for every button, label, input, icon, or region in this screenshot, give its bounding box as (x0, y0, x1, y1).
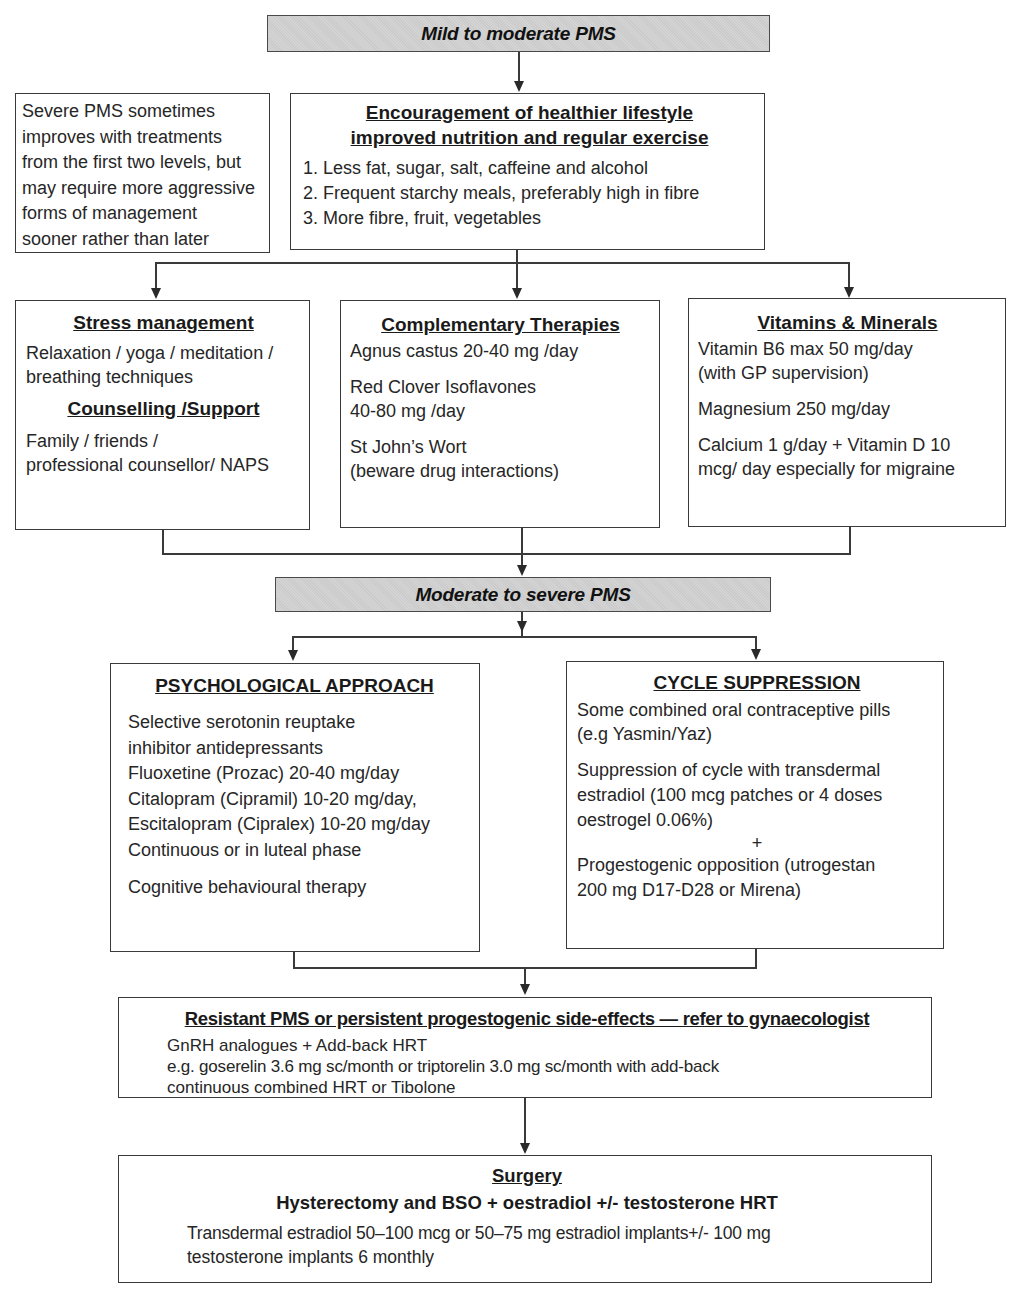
vitamins-minerals-box: Vitamins & Minerals Vitamin B6 max 50 mg… (688, 298, 1006, 527)
resistant-heading: Resistant PMS or persistent progestogeni… (129, 1006, 925, 1032)
stress-management-box: Stress management Relaxation / yoga / me… (15, 300, 310, 530)
spacer (698, 385, 997, 397)
lifestyle-item: 2. Frequent starchy meals, preferably hi… (303, 181, 756, 206)
note-line: may require more aggressive (22, 176, 264, 202)
arrow-down-icon (520, 984, 530, 995)
arrow-down-icon (751, 649, 761, 660)
lifestyle-box: Encouragement of healthier lifestyle imp… (290, 93, 765, 250)
connector (155, 262, 849, 264)
psychological-line: Continuous or in luteal phase (128, 838, 471, 864)
connector (524, 1098, 526, 1144)
cbt-line: Cognitive behavioural therapy (128, 875, 471, 901)
spacer (698, 421, 997, 433)
spacer (350, 423, 651, 435)
arrow-down-icon (288, 650, 298, 661)
vitamins-item: Vitamin B6 max 50 mg/day (698, 337, 997, 361)
vitamins-heading: Vitamins & Minerals (698, 311, 997, 335)
psychological-line: Selective serotonin reuptake (128, 710, 471, 736)
arrow-down-icon (151, 288, 161, 299)
complementary-item: Agnus castus 20-40 mg /day (350, 339, 651, 363)
arrow-down-icon (517, 565, 527, 576)
complementary-therapies-box: Complementary Therapies Agnus castus 20-… (340, 300, 660, 528)
arrow-down-icon (517, 621, 527, 632)
counselling-heading: Counselling /Support (26, 395, 301, 423)
psychological-line: Citalopram (Cipramil) 10-20 mg/day, (128, 787, 471, 813)
spacer (128, 863, 471, 875)
arrow-down-icon (520, 1143, 530, 1154)
cycle-line: 200 mg D17-D28 or Mirena) (577, 878, 937, 903)
vitamins-item: (with GP supervision) (698, 361, 997, 385)
plus-sign: + (577, 833, 937, 853)
complementary-item: 40-80 mg /day (350, 399, 651, 423)
connector (292, 636, 294, 651)
surgery-body: Transdermal estradiol 50–100 mcg or 50–7… (129, 1221, 925, 1269)
surgery-subheading: Hysterectomy and BSO + oestradiol +/- te… (129, 1189, 925, 1217)
connector (162, 530, 164, 554)
surgery-box: Surgery Hysterectomy and BSO + oestradio… (118, 1155, 932, 1283)
connector (292, 636, 756, 638)
level-mild-to-moderate: Mild to moderate PMS (267, 15, 770, 52)
cycle-line: Progestogenic opposition (utrogestan (577, 853, 937, 878)
cycle-line: Suppression of cycle with transdermal (577, 758, 937, 783)
connector (755, 949, 757, 968)
psychological-line: Fluoxetine (Prozac) 20-40 mg/day (128, 761, 471, 787)
connector (162, 553, 851, 555)
resistant-body: GnRH analogues + Add-back HRT e.g. goser… (129, 1035, 925, 1098)
note-line: Severe PMS sometimes (22, 99, 264, 125)
connector (293, 952, 295, 968)
vitamins-item: Magnesium 250 mg/day (698, 397, 997, 421)
connector (518, 52, 520, 82)
connector (155, 262, 157, 288)
psychological-line: inhibitor antidepressants (128, 736, 471, 762)
cycle-suppression-box: CYCLE SUPPRESSION Some combined oral con… (566, 661, 944, 949)
lifestyle-item: 1. Less fat, sugar, salt, caffeine and a… (303, 156, 756, 181)
surgery-heading: Surgery (129, 1163, 925, 1189)
psychological-approach-box: PSYCHOLOGICAL APPROACH Selective seroton… (110, 663, 480, 952)
resistant-line: continuous combined HRT or Tibolone (167, 1077, 925, 1098)
note-line: forms of management (22, 201, 264, 227)
connector (521, 528, 523, 566)
arrow-down-icon (512, 288, 522, 299)
spacer (350, 363, 651, 375)
connector (849, 527, 851, 554)
cycle-line: estradiol (100 mcg patches or 4 doses (577, 783, 937, 808)
arrow-down-icon (514, 81, 524, 92)
stress-line: breathing techniques (26, 365, 301, 389)
psychological-heading: PSYCHOLOGICAL APPROACH (128, 674, 471, 698)
complementary-item: St John’s Wort (350, 435, 651, 459)
note-line: sooner rather than later (22, 227, 264, 253)
resistant-line: e.g. goserelin 3.6 mg sc/month or tripto… (167, 1056, 925, 1077)
surgery-line: Transdermal estradiol 50–100 mcg or 50–7… (187, 1221, 925, 1245)
resistant-pms-box: Resistant PMS or persistent progestogeni… (118, 997, 932, 1098)
vitamins-item: mcg/ day especially for migraine (698, 457, 997, 481)
connector (848, 262, 850, 288)
connector (755, 636, 757, 650)
spacer (128, 698, 471, 710)
connector (524, 967, 526, 985)
arrow-down-icon (844, 287, 854, 298)
counselling-line: professional counsellor/ NAPS (26, 453, 301, 477)
severe-pms-note: Severe PMS sometimes improves with treat… (15, 93, 270, 253)
cycle-heading: CYCLE SUPPRESSION (577, 671, 937, 695)
counselling-line: Family / friends / (26, 429, 301, 453)
resistant-line: GnRH analogues + Add-back HRT (167, 1035, 925, 1056)
stress-heading: Stress management (26, 311, 301, 335)
spacer (577, 746, 937, 758)
psychological-line: Escitalopram (Cipralex) 10-20 mg/day (128, 812, 471, 838)
complementary-item: (beware drug interactions) (350, 459, 651, 483)
level-moderate-to-severe: Moderate to severe PMS (275, 577, 771, 612)
level-label: Mild to moderate PMS (268, 23, 769, 45)
cycle-line: Some combined oral contraceptive pills (577, 698, 937, 722)
note-line: from the first two levels, but (22, 150, 264, 176)
surgery-line: testosterone implants 6 monthly (187, 1245, 925, 1269)
vitamins-item: Calcium 1 g/day + Vitamin D 10 (698, 433, 997, 457)
cycle-line: oestrogel 0.06%) (577, 808, 937, 833)
stress-line: Relaxation / yoga / meditation / (26, 341, 301, 365)
cycle-line: (e.g Yasmin/Yaz) (577, 722, 937, 746)
connector (516, 250, 518, 288)
level-label: Moderate to severe PMS (276, 584, 770, 606)
lifestyle-heading-1: Encouragement of healthier lifestyle (303, 100, 756, 125)
complementary-heading: Complementary Therapies (350, 313, 651, 337)
lifestyle-heading-2: improved nutrition and regular exercise (303, 125, 756, 150)
complementary-item: Red Clover Isoflavones (350, 375, 651, 399)
